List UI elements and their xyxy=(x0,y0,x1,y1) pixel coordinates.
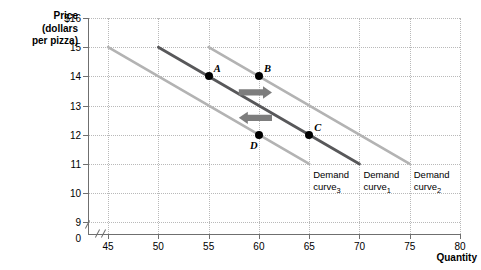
data-point-d xyxy=(255,131,263,139)
y-tick-label: $16 xyxy=(64,13,81,24)
demand-curve-chart: Price (dollars per pizza) Quantity ABCD … xyxy=(0,0,481,270)
curve-label-line-2: curve1 xyxy=(363,181,390,192)
curve-label-line-2: curve2 xyxy=(414,181,441,192)
x-tick-label: 80 xyxy=(454,241,465,252)
data-point-label-c: C xyxy=(314,122,321,133)
data-point-label-d: D xyxy=(250,140,258,151)
x-tick xyxy=(309,234,310,239)
y-axis-line xyxy=(88,18,89,234)
x-tick-label: 75 xyxy=(404,241,415,252)
x-tick-label: 60 xyxy=(253,241,264,252)
y-axis-title-line-3: per pizza) xyxy=(0,35,78,48)
curve-label-line-1: Demand xyxy=(313,169,349,180)
x-tick xyxy=(460,234,461,239)
y-tick-label: 10 xyxy=(70,188,81,199)
curve-label-line-1: Demand xyxy=(363,169,399,180)
y-tick-label: 9 xyxy=(75,217,81,228)
x-tick-label: 55 xyxy=(203,241,214,252)
x-tick xyxy=(209,234,210,239)
y-tick-label: 14 xyxy=(70,71,81,82)
y-tick xyxy=(83,18,88,19)
data-point-a xyxy=(205,72,213,80)
x-tick-label: 45 xyxy=(103,241,114,252)
y-tick xyxy=(83,106,88,107)
curve-label-line-1: Demand xyxy=(414,169,450,180)
x-tick-label: 65 xyxy=(304,241,315,252)
curve-label-1: Demandcurve1 xyxy=(363,169,399,196)
x-tick xyxy=(359,234,360,239)
x-tick-label: 50 xyxy=(153,241,164,252)
y-tick-label: 12 xyxy=(70,129,81,140)
y-tick-label: 15 xyxy=(70,42,81,53)
shift-arrows xyxy=(88,18,460,234)
y-tick xyxy=(83,47,88,48)
data-point-b xyxy=(255,72,263,80)
shift-left-arrow xyxy=(239,112,272,124)
data-point-label-b: B xyxy=(264,63,271,74)
x-tick xyxy=(259,234,260,239)
x-tick xyxy=(158,234,159,239)
x-tick xyxy=(410,234,411,239)
x-tick xyxy=(108,234,109,239)
y-tick xyxy=(83,135,88,136)
curve-label-line-2: curve3 xyxy=(313,181,340,192)
gridline-vertical xyxy=(460,18,461,234)
y-tick-label: 13 xyxy=(70,100,81,111)
curve-label-2: Demandcurve2 xyxy=(414,169,450,196)
y-tick-label: 11 xyxy=(71,158,81,169)
y-tick xyxy=(83,164,88,165)
x-tick-label: 70 xyxy=(354,241,365,252)
x-axis-title: Quantity xyxy=(436,252,477,263)
y-axis-title-line-2: (dollars xyxy=(0,23,78,36)
y-tick xyxy=(83,76,88,77)
data-point-label-a: A xyxy=(214,63,221,74)
data-point-c xyxy=(305,131,313,139)
curve-label-3: Demandcurve3 xyxy=(313,169,349,196)
origin-label: 0 xyxy=(75,233,81,244)
y-tick xyxy=(83,193,88,194)
x-axis-line xyxy=(88,234,460,235)
shift-right-arrow xyxy=(239,86,272,98)
plot-area: ABCD Demandcurve3Demandcurve1Demandcurve… xyxy=(88,18,460,234)
